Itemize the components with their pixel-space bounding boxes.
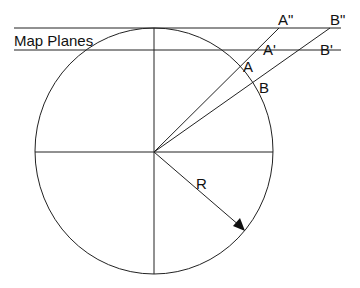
point-b-prime-label: B' bbox=[320, 41, 333, 58]
point-b-label: B bbox=[259, 79, 269, 96]
point-a-double-prime-label: A" bbox=[278, 11, 293, 28]
map-projection-diagram: Map Planes A" B" A' B' A B R bbox=[0, 0, 360, 288]
radius-label: R bbox=[196, 175, 207, 192]
map-planes-label: Map Planes bbox=[14, 32, 93, 49]
ray-b bbox=[154, 28, 330, 152]
point-a-prime-label: A' bbox=[263, 41, 276, 58]
radius-arrowhead-icon bbox=[233, 218, 245, 231]
point-a-label: A bbox=[243, 58, 253, 75]
point-b-double-prime-label: B" bbox=[330, 11, 345, 28]
